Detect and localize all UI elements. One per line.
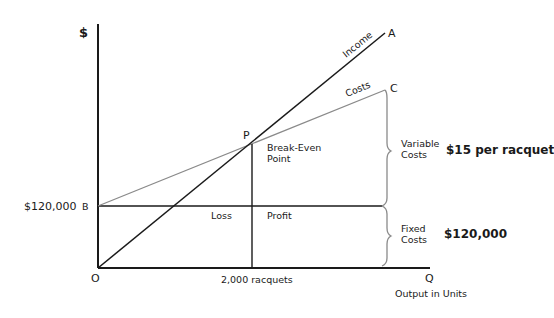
costs-line-label: Costs: [344, 79, 372, 99]
loss-region-label: Loss: [211, 210, 232, 221]
fixed-costs-bracket: [382, 206, 391, 266]
x-axis-label: Output in Units: [395, 288, 467, 299]
income-line: [98, 33, 385, 268]
break-even-label-line2: Point: [267, 153, 291, 164]
fixed-costs-label-line1: Fixed: [401, 223, 426, 234]
y-axis-symbol: $: [79, 25, 88, 40]
variable-costs-label-line1: Variable: [401, 138, 440, 149]
variable-costs-value: $15 per racquet: [446, 143, 554, 157]
profit-region-label: Profit: [267, 210, 292, 221]
costs-line: [98, 90, 385, 206]
break-even-quantity: 2,000 racquets: [221, 274, 293, 285]
a-label: A: [388, 27, 396, 40]
fixed-costs-value: $120,000: [444, 227, 507, 241]
break-even-label-line1: Break-Even: [267, 142, 321, 153]
q-label: Q: [425, 272, 434, 285]
p-label: P: [243, 129, 250, 142]
c-label: C: [390, 82, 398, 95]
variable-costs-bracket: [382, 90, 391, 206]
fixed-costs-label-line2: Costs: [401, 234, 427, 245]
fixed-cost-axis-value: $120,000: [24, 200, 77, 213]
b-label: B: [82, 201, 89, 212]
variable-costs-label-line2: Costs: [401, 149, 427, 160]
origin-label: O: [91, 272, 100, 285]
break-even-diagram: $ O Q Output in Units $120,000 B A C P I…: [0, 0, 554, 318]
